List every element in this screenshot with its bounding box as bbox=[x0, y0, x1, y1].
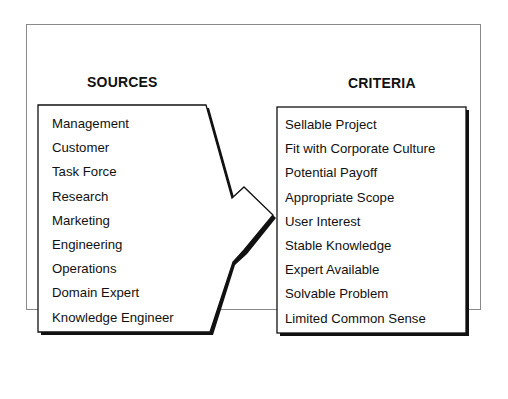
sources-item: Customer bbox=[52, 136, 174, 160]
sources-item: Research bbox=[52, 185, 174, 209]
criteria-item: Sellable Project bbox=[285, 113, 435, 137]
criteria-item: Potential Payoff bbox=[285, 161, 435, 185]
criteria-item: User Interest bbox=[285, 210, 435, 234]
criteria-item: Fit with Corporate Culture bbox=[285, 137, 435, 161]
criteria-item: Appropriate Scope bbox=[285, 186, 435, 210]
sources-item: Engineering bbox=[52, 233, 174, 257]
criteria-item: Expert Available bbox=[285, 258, 435, 282]
sources-item: Knowledge Engineer bbox=[52, 306, 174, 330]
criteria-item: Solvable Problem bbox=[285, 282, 435, 306]
criteria-list: Sellable Project Fit with Corporate Cult… bbox=[285, 113, 435, 331]
sources-item: Task Force bbox=[52, 160, 174, 184]
sources-list: Management Customer Task Force Research … bbox=[52, 112, 174, 330]
sources-item: Domain Expert bbox=[52, 281, 174, 305]
sources-item: Operations bbox=[52, 257, 174, 281]
sources-item: Management bbox=[52, 112, 174, 136]
criteria-item: Limited Common Sense bbox=[285, 307, 435, 331]
criteria-item: Stable Knowledge bbox=[285, 234, 435, 258]
sources-item: Marketing bbox=[52, 209, 174, 233]
